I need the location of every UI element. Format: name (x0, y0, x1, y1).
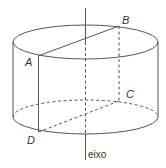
axis-label: eixo (88, 149, 107, 160)
label-b: B (122, 14, 129, 26)
segment-dc (39, 101, 120, 132)
label-d: D (27, 134, 35, 146)
label-c: C (126, 88, 134, 100)
cylinder-diagram: A B C D eixo (0, 0, 166, 168)
label-a: A (24, 56, 32, 68)
segment-ab (38, 26, 119, 56)
